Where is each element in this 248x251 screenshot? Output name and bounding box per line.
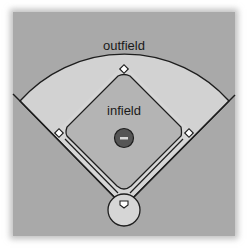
baseball-field-diagram: outfield infield	[0, 0, 248, 251]
pitchers-rubber	[120, 137, 128, 140]
home-plate-area	[108, 194, 140, 226]
infield-label: infield	[107, 103, 141, 118]
outfield-label: outfield	[103, 38, 145, 53]
right-foul-line	[229, 95, 235, 101]
left-foul-line	[13, 94, 20, 101]
